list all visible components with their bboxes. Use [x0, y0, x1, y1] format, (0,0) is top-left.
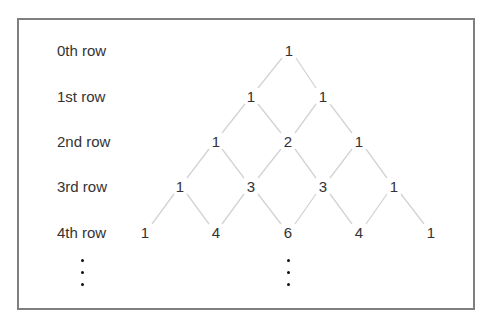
row-label-3: 3rd row [57, 178, 107, 195]
row-label-0: 0th row [57, 42, 106, 59]
cell-2-0: 1 [212, 133, 220, 150]
cell-0-0: 1 [285, 42, 293, 59]
row-label-1: 1st row [57, 88, 105, 105]
cell-4-0: 1 [141, 224, 149, 241]
cell-1-1: 1 [319, 88, 327, 105]
row-label-4: 4th row [57, 224, 106, 241]
cell-4-3: 4 [355, 224, 363, 241]
cell-3-3: 1 [390, 178, 398, 195]
cell-3-2: 3 [319, 178, 327, 195]
cell-2-1: 2 [284, 133, 292, 150]
cell-4-2: 6 [284, 224, 292, 241]
cell-1-0: 1 [247, 88, 255, 105]
cell-3-1: 3 [247, 178, 255, 195]
cell-4-1: 4 [212, 224, 220, 241]
cell-3-0: 1 [176, 178, 184, 195]
cell-2-2: 1 [355, 133, 363, 150]
row-label-2: 2nd row [57, 133, 110, 150]
cell-4-4: 1 [427, 224, 435, 241]
